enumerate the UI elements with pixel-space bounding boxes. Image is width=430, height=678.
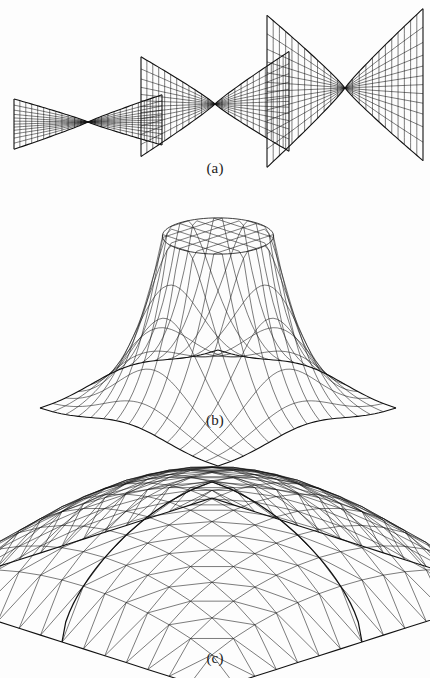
mesh-gridline-u [19,467,319,629]
mesh-ruling [345,55,423,88]
mesh-diagonal [426,542,430,580]
panel-a-label: (a) [0,160,430,177]
mesh-diagonal [405,572,430,615]
mesh-diagonal [212,550,255,554]
mesh-gridline-v [167,221,345,418]
mesh-ruling [345,42,423,88]
mesh-ruling [267,15,345,88]
mesh-gridline-v [180,285,358,416]
mesh-diagonal [169,490,212,511]
mesh-gridline-u [180,318,358,449]
mesh-diagonal [255,475,298,484]
apex-ridge-front [212,482,362,642]
panel-c-tent-surface [0,444,430,650]
mesh-diagonal [276,575,319,593]
mesh-ruling [345,27,423,88]
mesh-gridline-v [78,318,256,449]
mesh-ruling [14,105,88,122]
panel-c-label: (c) [0,650,430,667]
mesh-diagonal [405,533,430,557]
mesh-ruling [141,57,215,104]
mesh-diagonal [62,594,105,642]
mesh-diagonal [19,512,62,533]
mesh-diagonal [276,517,319,530]
mesh-diagonal [255,470,298,480]
mesh-diagonal [62,558,105,580]
mesh-diagonal [148,488,191,519]
mesh-diagonal [41,586,84,635]
mesh-diagonal [362,512,405,533]
mesh-gridline-u [148,525,430,669]
mesh-ruling [215,82,289,104]
mesh-diagonal [105,575,148,593]
mesh-ruling [141,104,215,144]
mesh-diagonal [212,490,255,511]
mesh-diagonal [383,575,426,621]
mesh-diagonal [233,601,276,613]
mesh-gridline-u [126,508,426,662]
mesh-diagonal [148,601,191,613]
mesh-ruling [345,85,423,88]
mesh-diagonal [298,603,341,649]
apex-ridge-side [62,482,212,642]
mesh-diagonal [341,552,384,576]
mesh-ruling [267,88,345,121]
mesh-diagonal [383,546,426,570]
mesh-diagonal [19,548,62,572]
mesh-gridline-u [0,471,276,615]
mesh-diagonal [169,550,212,554]
mesh-diagonal [148,567,191,576]
mesh-diagonal [212,582,255,587]
mesh-ruling [345,88,423,161]
mesh-diagonal [105,497,148,509]
mesh-diagonal [19,580,62,628]
mesh-gridline-v [0,525,276,669]
mesh-ruling [141,79,215,104]
mesh-diagonal [255,485,298,494]
mesh-diagonal [126,470,169,480]
mesh-gridline-u [142,229,320,429]
mesh-gridline-u [78,285,256,416]
mesh-gridline-v [126,467,426,621]
mesh-diagonal [298,511,341,526]
mesh-ruling [345,88,423,127]
mesh-diagonal [362,580,405,628]
panel-b-label: (b) [0,412,430,429]
mesh-gridline-u [129,224,307,424]
mesh-diagonal [233,536,276,543]
mesh-diagonal [62,489,105,511]
mesh-diagonal [169,522,212,525]
mesh-diagonal [126,475,169,484]
mesh-gridline-v [105,467,405,629]
tent-surface-mesh [0,467,430,678]
mesh-diagonal [319,489,362,511]
mesh-diagonal [148,536,191,543]
panel-c-svg [0,444,430,650]
mesh-diagonal [319,594,362,642]
mesh-diagonal [341,586,384,635]
mesh-diagonal [105,517,148,530]
mesh-diagonal [233,567,276,576]
mesh-diagonal [233,488,276,519]
mesh-diagonal [83,603,126,649]
mesh-gridline-v [129,224,307,424]
mesh-diagonal [41,499,84,519]
mesh-gridline-v [0,508,298,662]
mesh-diagonal [426,570,430,608]
mesh-gridline-u [40,350,218,408]
mesh-gridline-u [154,235,332,436]
mesh-diagonal [126,485,169,494]
mesh-diagonal [341,526,384,546]
mesh-ruling [215,64,289,104]
saddle-surface-3 [267,9,423,168]
mesh-gridline-v [104,235,282,436]
mesh-diagonal [276,497,319,509]
panel-a-svg [0,0,430,160]
mesh-diagonal [362,548,405,572]
mesh-ruling [88,122,162,134]
saddle-surface-1 [14,95,162,150]
mesh-diagonal [319,558,362,580]
mesh-gridline-u [91,221,269,418]
mesh-diagonal [41,552,84,576]
mesh-ruling [345,9,423,88]
